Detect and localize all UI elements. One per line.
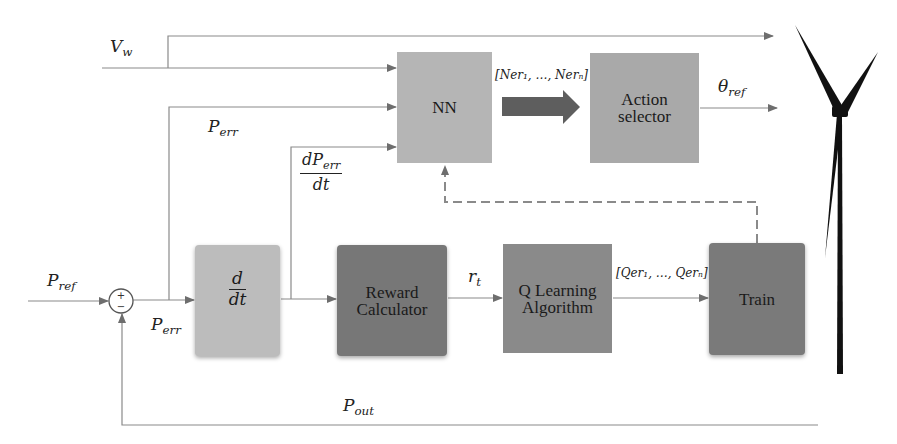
- nn-output-vector-label: [Ner₁, …, Nerₙ]: [495, 68, 588, 82]
- rl-pitch-control-diagram: + − NN Action selector d dt Reward Calcu…: [0, 0, 897, 444]
- theta-ref-label: θref: [718, 76, 745, 99]
- q-learning-label-1: Q Learning: [519, 282, 597, 299]
- derivative-block: d dt: [195, 245, 280, 356]
- reward-calculator-block: Reward Calculator: [337, 245, 447, 356]
- perr-bottom-label: Perr: [151, 314, 181, 337]
- q-output-vector-label: [Qer₁, …, Qerₙ]: [616, 266, 708, 280]
- train-feedback-dashed-wire: [445, 166, 757, 243]
- nn-to-action-arrow: [502, 90, 580, 124]
- nn-label: NN: [432, 99, 457, 116]
- wind-turbine-icon: [795, 25, 878, 374]
- reward-label-1: Reward: [366, 284, 419, 301]
- train-label: Train: [739, 291, 775, 308]
- svg-text:+: +: [117, 290, 125, 301]
- action-selector-label-2: selector: [618, 108, 671, 125]
- derivative-numerator: d: [229, 270, 247, 290]
- vw-label: Vw: [110, 36, 132, 59]
- q-learning-block: Q Learning Algorithm: [503, 244, 612, 353]
- perr-top-label: Perr: [208, 116, 238, 139]
- dperr-dt-label: dPerr dt: [300, 150, 342, 194]
- action-selector-block: Action selector: [590, 53, 699, 163]
- nn-block: NN: [397, 52, 492, 163]
- action-selector-label-1: Action: [621, 91, 667, 108]
- reward-label-2: Calculator: [357, 301, 428, 318]
- svg-text:−: −: [117, 301, 125, 312]
- q-learning-label-2: Algorithm: [522, 299, 593, 316]
- derivative-denominator: dt: [229, 290, 247, 308]
- pref-label: Pref: [47, 270, 76, 293]
- train-block: Train: [709, 243, 805, 355]
- summing-junction: + −: [109, 289, 133, 313]
- pout-label: Pout: [343, 395, 374, 418]
- rt-label: rt: [468, 266, 481, 289]
